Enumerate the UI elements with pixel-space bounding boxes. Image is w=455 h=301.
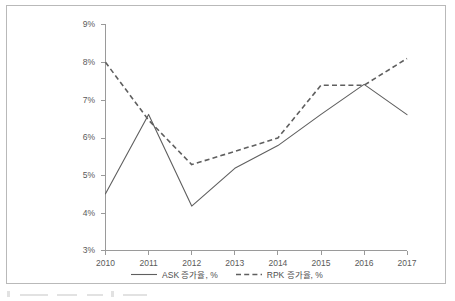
y-tick-label-4: 4% — [69, 208, 95, 218]
legend-item-ask: ASK 증가율, % — [131, 268, 218, 280]
chart-canvas — [7, 6, 447, 285]
x-tick-label-2015: 2015 — [301, 258, 341, 268]
x-tick-label-2010: 2010 — [86, 258, 126, 268]
x-axis-ticks — [106, 251, 408, 256]
legend-label-ask: ASK 증가율, % — [162, 268, 218, 280]
x-tick-label-2013: 2013 — [215, 258, 255, 268]
x-tick-label-2016: 2016 — [344, 258, 384, 268]
y-tick-label-8: 8% — [69, 57, 95, 67]
y-tick-label-9: 9% — [69, 19, 95, 29]
x-tick-label-2011: 2011 — [129, 258, 169, 268]
legend-item-rpk: RPK 증가율, % — [236, 268, 323, 280]
y-tick-label-5: 5% — [69, 170, 95, 180]
legend-dashed-line-icon — [236, 270, 262, 279]
chart-frame: 9% 8% 7% 6% 5% 4% 3% 2010 2011 2012 2013… — [6, 5, 446, 284]
page-scan-artifact — [7, 291, 157, 298]
x-tick-label-2017: 2017 — [387, 258, 427, 268]
x-tick-label-2012: 2012 — [172, 258, 212, 268]
chart-legend: ASK 증가율, % RPK 증가율, % — [7, 268, 447, 280]
y-tick-label-6: 6% — [69, 132, 95, 142]
x-tick-label-2014: 2014 — [258, 258, 298, 268]
y-axis-ticks — [101, 25, 106, 251]
y-tick-label-3: 3% — [69, 245, 95, 255]
plot-area: 9% 8% 7% 6% 5% 4% 3% 2010 2011 2012 2013… — [7, 6, 447, 285]
legend-label-rpk: RPK 증가율, % — [267, 268, 323, 280]
y-tick-label-7: 7% — [69, 95, 95, 105]
series-line-rpk — [106, 59, 408, 165]
legend-solid-line-icon — [131, 270, 157, 279]
